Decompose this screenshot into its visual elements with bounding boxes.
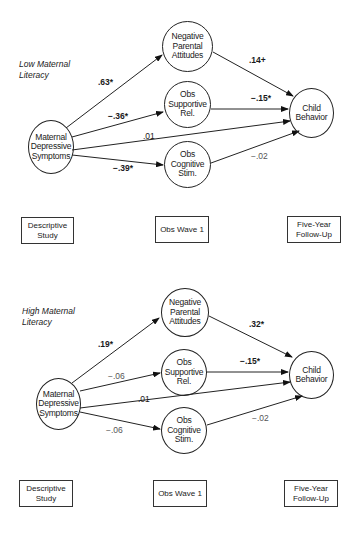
path-label-maternal-cognitive: −.39*	[113, 163, 133, 173]
path-label-supportive-child: −.15*	[251, 93, 271, 103]
node-obs-supportive-rel: Obs Supportive Rel.	[161, 349, 207, 396]
group-title: High Maternal Literacy	[22, 306, 75, 328]
node-maternal-depressive-symptoms: Maternal Depressive Symptoms	[36, 378, 81, 430]
path-label-maternal-negative: .19*	[98, 339, 113, 349]
node-maternal-depressive-symptoms: Maternal Depressive Symptoms	[28, 120, 74, 174]
timeline-five-year-follow-up: Five-Year Follow-Up	[287, 216, 341, 243]
path-label-maternal-supportive: −.06	[108, 371, 125, 381]
path-label-supportive-child: −.15*	[240, 356, 260, 366]
node-obs-cognitive-stim: Obs Cognitive Stim.	[161, 407, 207, 454]
path-label-cognitive-child: −.02	[251, 151, 268, 161]
node-obs-cognitive-stim: Obs Cognitive Stim.	[164, 141, 211, 188]
timeline-obs-wave-1: Obs Wave 1	[153, 480, 207, 507]
panel-low-literacy: Low Maternal Literacy Maternal Depressiv…	[0, 0, 359, 265]
path-label-maternal-negative: .63*	[98, 77, 113, 87]
path-label-maternal-child: .01	[138, 394, 150, 404]
path-label-cognitive-child: −.02	[252, 413, 269, 423]
path-label-negative-child: .14+	[249, 55, 266, 65]
path-label-maternal-cognitive: −.06	[106, 425, 123, 435]
timeline-obs-wave-1: Obs Wave 1	[155, 216, 209, 243]
node-obs-supportive-rel: Obs Supportive Rel.	[164, 81, 211, 128]
timeline-descriptive-study: Descriptive Study	[19, 480, 73, 507]
node-negative-parental-attitudes: Negative Parental Attitudes	[161, 288, 209, 337]
panel-high-literacy: High Maternal Literacy Maternal Depressi…	[0, 265, 359, 535]
node-negative-parental-attitudes: Negative Parental Attitudes	[162, 21, 213, 72]
timeline-five-year-follow-up: Five-Year Follow-Up	[284, 480, 338, 507]
node-child-behavior: Child Behavior	[289, 351, 334, 399]
path-label-maternal-child: .01	[143, 131, 155, 141]
group-title: Low Maternal Literacy	[19, 59, 70, 81]
path-label-negative-child: .32*	[249, 319, 264, 329]
timeline-descriptive-study: Descriptive Study	[21, 217, 74, 244]
node-child-behavior: Child Behavior	[289, 88, 334, 138]
path-label-maternal-supportive: −.36*	[108, 111, 128, 121]
